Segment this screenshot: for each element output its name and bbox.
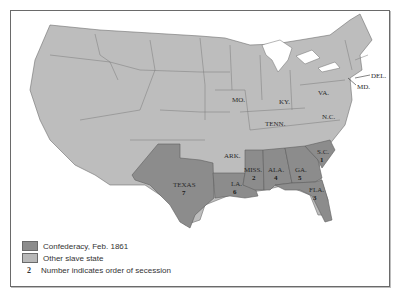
order-miss: 2 bbox=[252, 174, 256, 182]
order-texas: 7 bbox=[182, 189, 186, 197]
label-nc: N.C. bbox=[322, 113, 335, 121]
order-sc: 1 bbox=[320, 156, 324, 164]
order-la: 6 bbox=[233, 188, 237, 196]
legend-item-other-slave: Other slave state bbox=[22, 252, 171, 264]
label-ga: GA. bbox=[295, 166, 307, 174]
label-va: VA. bbox=[318, 89, 329, 97]
legend-item-order: 2 Number indicates order of secession bbox=[22, 264, 171, 276]
legend-label: Other slave state bbox=[43, 254, 103, 263]
label-md: MD. bbox=[357, 83, 370, 91]
label-fla: FLA. bbox=[309, 186, 324, 194]
label-ky: KY. bbox=[279, 98, 290, 106]
label-ark: ARK. bbox=[224, 152, 241, 160]
label-mo: MO. bbox=[232, 96, 245, 104]
legend-label: Number indicates order of secession bbox=[41, 266, 171, 275]
legend-label: Confederacy, Feb. 1861 bbox=[43, 242, 128, 251]
label-miss: MISS. bbox=[244, 166, 262, 174]
label-sc: S.C. bbox=[317, 148, 329, 156]
legend-item-confederacy: Confederacy, Feb. 1861 bbox=[22, 240, 171, 252]
map-legend: Confederacy, Feb. 1861 Other slave state… bbox=[22, 240, 171, 276]
order-fla: 3 bbox=[313, 194, 317, 202]
label-texas: TEXAS bbox=[173, 181, 196, 189]
order-ga: 5 bbox=[298, 174, 302, 182]
label-tenn: TENN. bbox=[265, 120, 286, 128]
order-marker: 2 bbox=[22, 266, 36, 275]
label-ala: ALA. bbox=[268, 166, 284, 174]
label-la: LA. bbox=[231, 180, 242, 188]
confederacy-swatch bbox=[22, 241, 38, 251]
other-slave-swatch bbox=[22, 253, 38, 263]
label-del: DEL. bbox=[371, 72, 387, 80]
order-ala: 4 bbox=[274, 174, 278, 182]
